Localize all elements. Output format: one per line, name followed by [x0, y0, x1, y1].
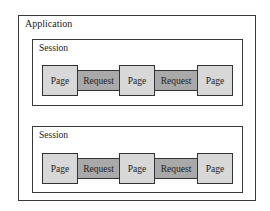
- session-label-1: Session: [39, 43, 68, 53]
- page-box: Page: [119, 65, 155, 96]
- request-box: Request: [154, 70, 198, 91]
- request-box: Request: [154, 158, 198, 179]
- page-box: Page: [197, 153, 233, 184]
- page-box: Page: [119, 153, 155, 184]
- page-box: Page: [42, 65, 78, 96]
- page-box: Page: [42, 153, 78, 184]
- request-box: Request: [77, 158, 120, 179]
- request-box: Request: [77, 70, 120, 91]
- session-label-2: Session: [39, 130, 68, 140]
- application-label: Application: [25, 18, 72, 29]
- page-box: Page: [197, 65, 233, 96]
